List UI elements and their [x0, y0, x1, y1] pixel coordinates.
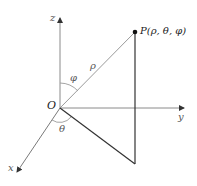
origin-label: O [47, 100, 56, 111]
z-axis-label: z [50, 13, 55, 23]
rho-line [60, 33, 134, 108]
theta-arc [52, 117, 71, 122]
theta-label: θ [59, 124, 65, 134]
point-p-label: P(ρ, θ, φ) [140, 26, 186, 36]
point-p-dot [133, 30, 138, 35]
y-axis-label: y [178, 112, 184, 122]
phi-arc [60, 83, 78, 91]
spherical-coordinates-diagram: z y x O P(ρ, θ, φ) ρ φ θ [0, 0, 197, 186]
ground-projection-line [60, 108, 135, 164]
x-axis-label: x [8, 163, 14, 173]
phi-label: φ [70, 73, 77, 83]
rho-label: ρ [90, 61, 96, 71]
x-axis [17, 108, 60, 172]
